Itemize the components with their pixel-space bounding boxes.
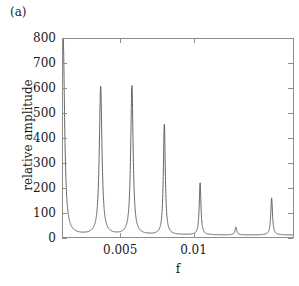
figure-panel-a: (a) relative amplitude 01002003004005006… — [0, 0, 299, 286]
y-tick-mark-right — [288, 163, 293, 164]
y-tick-mark — [62, 88, 67, 89]
x-tick-mark-top — [120, 38, 121, 43]
y-tick-mark — [62, 138, 67, 139]
x-tick-mark — [120, 233, 121, 238]
x-tick-mark — [194, 233, 195, 238]
y-tick-mark-right — [288, 88, 293, 89]
y-tick-mark — [62, 38, 67, 39]
y-tick-mark-right — [288, 38, 293, 39]
y-tick-mark — [62, 188, 67, 189]
y-tick-mark-right — [288, 113, 293, 114]
y-tick-mark-right — [288, 188, 293, 189]
x-tick-label-group: 0.0050.01 — [0, 243, 299, 263]
y-tick-mark — [62, 113, 67, 114]
y-tick-mark-right — [288, 213, 293, 214]
y-tick-mark-right — [288, 138, 293, 139]
x-tick-mark-top — [194, 38, 195, 43]
y-tick-mark — [62, 163, 67, 164]
x-axis-title: f — [62, 262, 294, 276]
y-tick-mark — [62, 63, 67, 64]
y-tick-mark — [62, 238, 67, 239]
x-tick-label: 0.005 — [103, 243, 137, 257]
y-tick-mark — [62, 213, 67, 214]
x-tick-label: 0.01 — [180, 243, 207, 257]
y-tick-mark-right — [288, 238, 293, 239]
y-tick-mark-right — [288, 63, 293, 64]
